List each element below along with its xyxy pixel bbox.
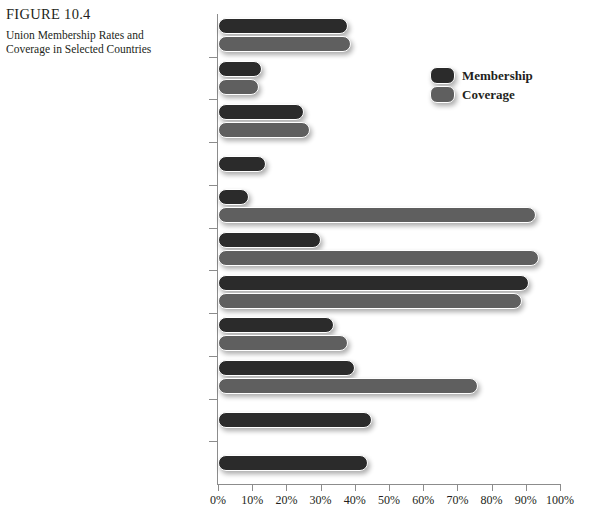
bar-membership-japan [218,104,304,120]
bar-membership-germany [218,232,321,248]
coverage-swatch [430,86,455,103]
y-axis-group-tick [209,356,218,357]
x-axis-tick [389,484,390,491]
x-axis-tick [423,484,424,491]
membership-swatch [430,67,455,84]
bar-membership-korea [218,156,266,172]
x-axis-tick-label: 20% [275,493,297,508]
bar-chart: CanadaUnited StatesJapanKoreaFranceGerma… [0,0,592,521]
y-axis-group-tick [209,142,218,143]
bar-membership-sweden [218,275,529,291]
bar-membership-argentina [218,360,355,376]
bar-membership-united-kingdom [218,317,334,333]
y-axis-group-tick [209,313,218,314]
x-axis-tick [526,484,527,491]
x-axis-tick-label: 40% [344,493,366,508]
bar-coverage-japan [218,122,310,138]
bar-membership-brazil [218,412,372,428]
x-axis-tick-label: 100% [546,493,574,508]
x-axis-tick [286,484,287,491]
y-axis-group-tick [209,57,218,58]
x-axis-tick-label: 0% [210,493,226,508]
legend-item-coverage: Coverage [430,85,533,104]
bar-coverage-argentina [218,378,478,394]
bar-coverage-sweden [218,293,522,309]
x-axis-tick-label: 50% [378,493,400,508]
x-axis-tick [457,484,458,491]
x-axis-tick [355,484,356,491]
x-axis-tick-label: 30% [310,493,332,508]
bar-membership-canada [218,18,348,34]
bar-coverage-united-states [218,79,259,95]
y-axis-group-tick [209,185,218,186]
x-axis-tick [321,484,322,491]
x-axis-tick [492,484,493,491]
bar-coverage-france [218,207,536,223]
legend-label: Membership [462,68,533,84]
bar-membership-mexico [218,455,368,471]
bar-membership-france [218,189,249,205]
x-axis-tick-label: 80% [481,493,503,508]
x-axis-tick [252,484,253,491]
y-axis-group-tick [209,441,218,442]
y-axis-group-tick [209,270,218,271]
bar-coverage-united-kingdom [218,335,348,351]
bar-membership-united-states [218,61,262,77]
bar-coverage-canada [218,36,351,52]
legend-label: Coverage [462,87,515,103]
y-axis-group-tick [209,228,218,229]
y-axis-group-tick [209,99,218,100]
x-axis-tick [560,484,561,491]
x-axis-tick-label: 90% [515,493,537,508]
x-axis-tick-label: 70% [446,493,468,508]
chart-legend: MembershipCoverage [430,66,533,104]
y-axis-group-tick [209,399,218,400]
legend-item-membership: Membership [430,66,533,85]
x-axis-tick-label: 60% [412,493,434,508]
bar-coverage-germany [218,250,539,266]
x-axis-tick [218,484,219,491]
x-axis-tick-label: 10% [241,493,263,508]
